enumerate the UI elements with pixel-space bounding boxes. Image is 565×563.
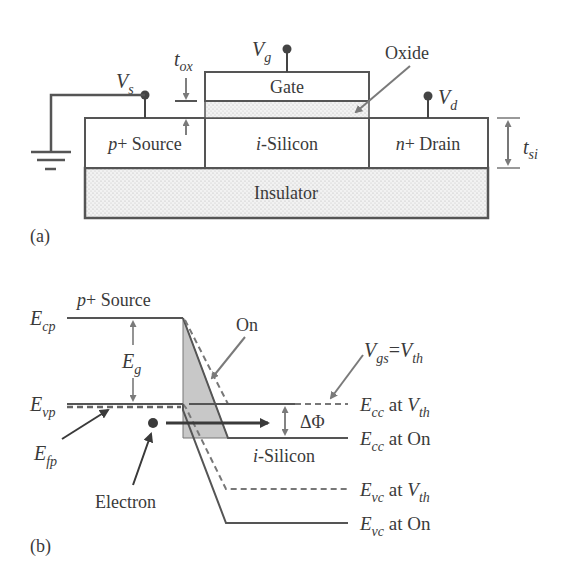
legend-evc-vth: Evc at Vth (359, 479, 430, 505)
eg-label: Eg (121, 350, 141, 377)
source-band-title: p+ Source (75, 290, 151, 310)
ecp-label: Ecp (29, 307, 55, 334)
vg-terminal (283, 45, 292, 54)
delta-phi-label: ΔΦ (300, 412, 325, 432)
panel-b-band-diagram: Eg Electron ΔΦ i-Silicon p+ Source Ecp E… (29, 290, 431, 557)
tox-label: tox (174, 48, 194, 74)
evp-label: Evp (29, 393, 55, 420)
source-label: p+ Source (106, 134, 182, 154)
efp-label: Efp (33, 442, 57, 469)
i-silicon-label: i-Silicon (253, 446, 315, 466)
oxide-label: Oxide (385, 43, 429, 63)
on-pointer-arrow (212, 337, 245, 378)
vs-label: Vs (116, 70, 134, 97)
panel-a-label: (a) (30, 226, 50, 247)
legend-evc-on: Evc at On (359, 513, 431, 539)
panel-b-label: (b) (30, 536, 51, 557)
legend-ecc-vth: Ecc at Vth (359, 394, 430, 420)
efp-pointer-arrow (62, 410, 108, 439)
ground-icon (31, 152, 71, 169)
electron-dot (148, 418, 158, 428)
legend-ecc-on: Ecc at On (359, 428, 431, 454)
gate-oxide (205, 101, 369, 118)
tsi-dimension (497, 118, 520, 168)
vgs-vth-label: Vgs=Vth (364, 339, 423, 366)
on-label: On (236, 315, 258, 335)
tsi-label: tsi (523, 136, 538, 162)
vth-pointer-arrow (331, 355, 363, 398)
insulator-label: Insulator (254, 183, 318, 203)
panel-a-device-cross-section: Insulator p+ Source i-Silicon n+ Drain G… (30, 38, 538, 247)
vd-terminal (424, 92, 433, 101)
electron-label: Electron (95, 492, 156, 512)
channel-label: i-Silicon (256, 134, 318, 154)
electron-pointer-arrow (133, 434, 151, 485)
vd-label: Vd (438, 86, 458, 113)
soi-tfet-figure: Insulator p+ Source i-Silicon n+ Drain G… (0, 0, 565, 563)
gate-label: Gate (270, 77, 304, 97)
drain-label: n+ Drain (396, 134, 461, 154)
vg-label: Vg (252, 38, 271, 65)
